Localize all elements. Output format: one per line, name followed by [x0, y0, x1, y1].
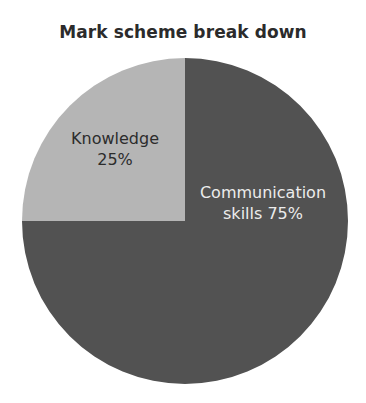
label-communication-name: Communication — [188, 182, 338, 203]
label-knowledge-value: 25% — [60, 149, 170, 170]
label-knowledge: Knowledge 25% — [60, 128, 170, 170]
label-communication-value: skills 75% — [188, 203, 338, 224]
label-knowledge-name: Knowledge — [60, 128, 170, 149]
label-communication-skills: Communication skills 75% — [188, 182, 338, 224]
